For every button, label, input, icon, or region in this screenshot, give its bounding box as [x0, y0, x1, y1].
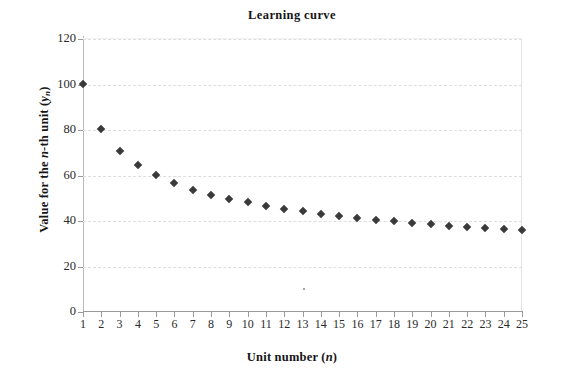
- gridline-y: [83, 176, 522, 177]
- y-axis-tick: [78, 39, 83, 40]
- gridline-y: [83, 267, 522, 268]
- y-axis-label: 20: [40, 260, 76, 273]
- gridline-y: [83, 221, 522, 222]
- gridline-y: [83, 85, 522, 86]
- gridline-y: [83, 39, 522, 40]
- y-axis-tick: [78, 221, 83, 222]
- gridline-y: [83, 130, 522, 131]
- x-axis-label: 25: [510, 318, 534, 330]
- y-axis-label: 120: [40, 32, 76, 45]
- y-axis-label: 80: [40, 123, 76, 136]
- y-axis-label: 100: [40, 78, 76, 91]
- y-axis-tick: [78, 130, 83, 131]
- y-axis-label: 40: [40, 214, 76, 227]
- chart-title: Learning curve: [0, 8, 584, 23]
- chart-page: Learning curve Value for the n-th unit (…: [0, 0, 584, 382]
- y-axis-tick: [78, 176, 83, 177]
- y-axis-label: 60: [40, 169, 76, 182]
- y-axis-title: Value for the n-th unit (yn): [37, 30, 52, 290]
- x-axis-title: Unit number (n): [0, 350, 584, 365]
- y-axis-label: 0: [40, 305, 76, 318]
- scan-speckle-artifact: [303, 288, 305, 290]
- plot-area: [83, 38, 522, 311]
- y-axis-tick: [78, 267, 83, 268]
